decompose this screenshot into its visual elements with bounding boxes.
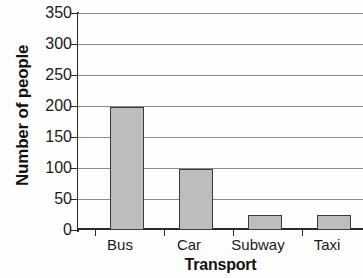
- gridline-350: [78, 13, 363, 14]
- y-tick-label-350: 350: [26, 5, 72, 21]
- y-tick-label-250: 250: [26, 67, 72, 83]
- x-category-label-car: Car: [159, 236, 219, 254]
- x-category-label-bus: Bus: [90, 236, 150, 254]
- bar-subway[interactable]: [248, 215, 282, 230]
- y-tick-label-150: 150: [26, 129, 72, 145]
- y-tick-label-100: 100: [26, 160, 72, 176]
- y-tick-label-50: 50: [26, 191, 72, 207]
- x-category-label-taxi: Taxi: [297, 236, 357, 254]
- chart-title: [78, 0, 363, 4]
- bar-car[interactable]: [179, 169, 213, 230]
- y-axis-tick-labels: 350 300 250 200 150 100 50 0: [24, 0, 72, 278]
- y-tick-label-0: 0: [26, 222, 72, 238]
- bar-chart: Number of people 350 300 250 200 150 100…: [0, 0, 363, 278]
- gridline-250: [78, 75, 363, 76]
- y-tick-label-200: 200: [26, 98, 72, 114]
- bar-bus[interactable]: [110, 107, 144, 230]
- plot-area: [78, 13, 363, 230]
- gridline-300: [78, 44, 363, 45]
- y-tick-label-300: 300: [26, 36, 72, 52]
- x-axis-title: Transport: [78, 256, 363, 274]
- bar-taxi[interactable]: [317, 215, 351, 230]
- x-category-label-subway: Subway: [220, 236, 296, 254]
